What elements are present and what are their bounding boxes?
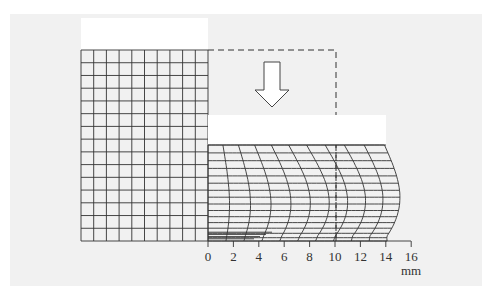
- axis-unit-label: mm: [401, 263, 421, 278]
- compression-arrow-icon: [255, 62, 289, 107]
- axis-tick-label: 2: [230, 249, 237, 264]
- axis-tick-label: 14: [379, 249, 393, 264]
- axis-tick-label: 12: [354, 249, 367, 264]
- axis-tick-label: 6: [281, 249, 288, 264]
- initial-grid: [81, 50, 208, 241]
- upper-die-initial: [81, 18, 208, 50]
- deformed-grid: [208, 145, 400, 241]
- mm-axis: [208, 241, 411, 247]
- axis-tick-label: 4: [256, 249, 263, 264]
- upsetting-diagram: mm 0246810121416: [0, 0, 492, 295]
- upper-die-deformed: [208, 115, 386, 145]
- axis-tick-label: 0: [205, 249, 212, 264]
- axis-tick-label: 10: [329, 249, 342, 264]
- axis-tick-label: 8: [306, 249, 313, 264]
- axis-tick-label: 16: [405, 249, 419, 264]
